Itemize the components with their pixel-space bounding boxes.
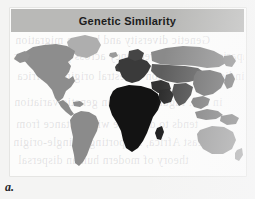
region-south-america [70,111,99,166]
world-map: Genetic diversity and human migration Co… [11,32,244,175]
region-europe [118,57,151,83]
world-map-svg [11,32,244,175]
region-south-asia [172,83,193,106]
figure-title: Genetic Similarity [79,15,176,27]
figure-root: Genetic Similarity Genetic diversity and… [0,0,255,199]
region-kamchatka [223,55,236,67]
region-central-america [58,100,74,116]
region-north-america [23,44,75,102]
region-caribbean [73,101,84,107]
region-japan [224,73,235,89]
figure-panel: Genetic Similarity Genetic diversity and… [10,8,246,176]
figure-caption-label: a. [5,180,14,195]
region-arabian-peninsula [159,89,174,104]
region-africa [109,85,161,152]
region-southeast-asia [191,96,210,109]
region-new-guinea [220,114,239,125]
region-new-zealand [235,148,243,161]
region-madagascar [155,126,164,140]
region-east-asia [193,70,225,96]
figure-title-bar: Genetic Similarity [11,9,244,32]
region-australia [197,126,236,154]
region-iceland [109,52,118,58]
region-indonesia [195,109,223,120]
